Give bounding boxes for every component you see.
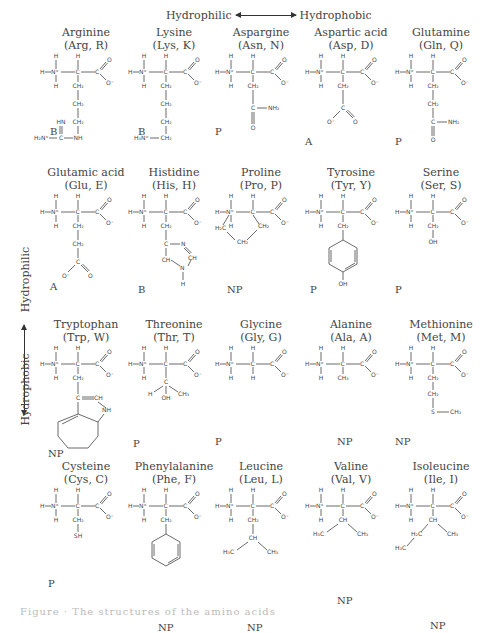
amino-acid-name: Leucine: [215, 460, 307, 473]
svg-text:CH₃: CH₃: [357, 530, 369, 537]
svg-text:H: H: [128, 502, 133, 509]
structure-diagram-icon: H H H N⁺ C C O O⁻ H CH₂CH₂CH₂NHCHNH₂N⁺: [40, 52, 132, 162]
amino-acid-name: Tryptophan: [40, 318, 132, 331]
svg-text:H: H: [142, 192, 147, 199]
svg-text:H: H: [319, 52, 324, 59]
svg-text:N⁺: N⁺: [316, 68, 324, 75]
svg-text:CH₂: CH₂: [160, 134, 172, 141]
svg-text:H: H: [164, 52, 169, 59]
amino-acid-cell: Tyrosine (Tyr, Y) H H H N⁺ C C O O⁻ H CH…: [305, 166, 397, 306]
svg-text:H: H: [229, 374, 234, 381]
svg-text:C: C: [341, 360, 345, 367]
svg-text:N⁺: N⁺: [226, 360, 234, 367]
svg-text:C: C: [341, 104, 345, 111]
svg-text:H₃C: H₃C: [223, 548, 234, 555]
svg-text:H: H: [251, 344, 256, 351]
svg-text:O: O: [251, 124, 256, 131]
svg-text:C: C: [183, 68, 187, 75]
svg-text:O⁻: O⁻: [461, 513, 469, 520]
polarity-class-label: NP: [430, 620, 445, 631]
svg-text:CH₃: CH₃: [267, 548, 279, 555]
svg-text:O: O: [462, 56, 467, 63]
structure-diagram-icon: H H H N⁺ C C O O⁻ H CHOHCH₃: [128, 344, 220, 454]
svg-text:N⁺: N⁺: [406, 208, 414, 215]
svg-text:C: C: [431, 118, 435, 125]
svg-text:CH: CH: [249, 534, 258, 541]
svg-text:H: H: [76, 192, 81, 199]
svg-text:H: H: [40, 68, 45, 75]
svg-text:H: H: [409, 222, 414, 229]
svg-text:H: H: [341, 192, 346, 199]
svg-text:O⁻: O⁻: [194, 219, 202, 226]
polarity-class-label: B: [138, 284, 145, 295]
amino-acid-name: Histidine: [128, 166, 220, 179]
svg-text:H: H: [142, 486, 147, 493]
amino-acid-name: Cysteine: [40, 460, 132, 473]
polarity-class-label: A: [50, 281, 57, 292]
svg-text:N: N: [180, 264, 185, 271]
svg-text:CH₂: CH₂: [427, 374, 439, 381]
svg-text:CH₂: CH₂: [247, 516, 259, 523]
svg-text:CH₂: CH₂: [160, 118, 172, 125]
amino-acid-name: Proline: [215, 166, 307, 179]
svg-text:O⁻: O⁻: [371, 371, 379, 378]
svg-text:CH₂: CH₂: [72, 100, 84, 107]
svg-text:CH₂: CH₂: [72, 118, 84, 125]
svg-text:H: H: [54, 374, 59, 381]
svg-text:C: C: [183, 208, 187, 215]
svg-text:N: N: [181, 240, 186, 247]
svg-text:H: H: [229, 52, 234, 59]
svg-text:N⁺: N⁺: [226, 502, 234, 509]
axis-label-hydrophilic: Hydrophilic: [166, 9, 232, 22]
hydrophobicity-axis-horizontal: Hydrophilic Hydrophobic: [166, 8, 372, 22]
svg-text:H: H: [319, 82, 324, 89]
svg-text:H: H: [142, 82, 147, 89]
svg-text:H: H: [54, 222, 59, 229]
structure-diagram-icon: H H H N⁺ C C O O⁻ H CH₂CNH₂O: [215, 52, 307, 162]
svg-text:C: C: [450, 208, 454, 215]
svg-text:H: H: [128, 68, 133, 75]
svg-text:H: H: [215, 502, 220, 509]
svg-text:O⁻: O⁻: [106, 79, 114, 86]
svg-text:O: O: [107, 348, 112, 355]
svg-text:O⁻: O⁻: [461, 79, 469, 86]
svg-text:C: C: [450, 360, 454, 367]
svg-text:C: C: [341, 502, 345, 509]
svg-text:N⁺: N⁺: [316, 502, 324, 509]
amino-acid-abbreviation: (Ser, S): [395, 179, 487, 192]
amino-acid-cell: Arginine (Arg, R) H H H N⁺ C C O O⁻ H CH…: [40, 26, 132, 166]
svg-text:H: H: [319, 374, 324, 381]
svg-text:CH₂: CH₂: [427, 82, 439, 89]
svg-text:O⁻: O⁻: [106, 513, 114, 520]
svg-text:N⁺: N⁺: [406, 360, 414, 367]
svg-text:C: C: [76, 360, 80, 367]
svg-text:H: H: [215, 360, 220, 367]
svg-text:H₂C: H₂C: [411, 530, 422, 537]
svg-text:H: H: [142, 52, 147, 59]
svg-text:C: C: [270, 502, 274, 509]
svg-text:C: C: [270, 208, 274, 215]
amino-acid-cell: Tryptophan (Trp, W) H H H N⁺ C C O O⁻ H …: [40, 318, 132, 458]
svg-text:H₃C: H₃C: [313, 530, 324, 537]
svg-text:OH: OH: [338, 280, 347, 287]
polarity-class-label: NP: [48, 448, 63, 459]
svg-text:H: H: [431, 52, 436, 59]
svg-text:H: H: [395, 502, 400, 509]
svg-text:C: C: [360, 502, 364, 509]
svg-text:H₂N⁺: H₂N⁺: [34, 134, 49, 141]
amino-acid-cell: Glycine (Gly, G) H H H N⁺ C C O O⁻ H H P: [215, 318, 307, 458]
svg-text:N⁺: N⁺: [316, 208, 324, 215]
polarity-class-label: B: [138, 126, 145, 137]
svg-text:H: H: [76, 52, 81, 59]
polarity-class-label: P: [215, 126, 222, 137]
amino-acid-abbreviation: (Asp, D): [305, 39, 397, 52]
amino-acid-abbreviation: (Asn, N): [215, 39, 307, 52]
axis-label-hydrophobic: Hydrophobic: [300, 9, 372, 22]
svg-text:O: O: [107, 56, 112, 63]
svg-text:O⁻: O⁻: [106, 219, 114, 226]
svg-text:O: O: [282, 348, 287, 355]
svg-text:H: H: [251, 374, 256, 381]
svg-text:H₂C: H₂C: [215, 224, 226, 231]
svg-text:C: C: [360, 68, 364, 75]
svg-text:C: C: [95, 360, 99, 367]
